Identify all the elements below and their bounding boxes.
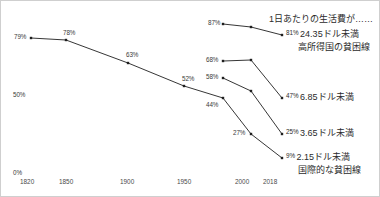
axis-tick-2000: 2000 [235, 179, 249, 185]
annotation-6-85-text: 6.85ドル未満 [300, 92, 354, 102]
axis-tick-1850: 1850 [59, 179, 73, 185]
annotation-24-35-sub: 高所得国の貧困線 [298, 43, 370, 52]
endpoint-label-47: 47% [286, 92, 299, 99]
annotation-header: 1日あたりの生活費が…… [269, 15, 373, 24]
endpoint-label-81: 81% [286, 29, 299, 36]
point-label-63: 63% [126, 52, 138, 58]
point-label-68: 68% [206, 57, 218, 63]
annotation-6-85: 47%6.85ドル未満 [286, 93, 354, 102]
series-markers [30, 23, 283, 159]
annotation-3-65: 25%3.65ドル未満 [286, 129, 354, 138]
series-line-24-35 [223, 24, 282, 35]
chart-figure: 0% 50% 1820 1850 1900 1950 2000 2018 79%… [0, 0, 380, 197]
point-label-87: 87% [208, 20, 220, 26]
annotation-2-15-sub: 国際的な貧困線 [298, 166, 361, 175]
point-label-44: 44% [206, 102, 218, 108]
series-line-2-15 [31, 38, 282, 158]
annotation-24-35-text: 24.35ドル未満 [300, 29, 359, 39]
axis-tick-1950: 1950 [177, 179, 191, 185]
axis-label-zero: 0% [13, 170, 22, 176]
series-line-3-65 [223, 78, 282, 134]
point-label-52: 52% [182, 76, 194, 82]
series-line-6-85 [223, 60, 282, 98]
annotation-2-15-text: 2.15ドル未満 [297, 152, 351, 162]
axis-tick-2018: 2018 [263, 179, 277, 185]
endpoint-label-25: 25% [286, 128, 299, 135]
annotation-2-15: 9%2.15ドル未満 [286, 153, 350, 162]
endpoint-label-9: 9% [286, 152, 295, 159]
point-label-78: 78% [63, 30, 75, 36]
axis-label-fifty: 50% [13, 92, 25, 98]
point-label-79: 79% [14, 34, 26, 40]
axis-tick-1900: 1900 [120, 179, 134, 185]
annotation-24-35: 81%24.35ドル未満 [286, 30, 359, 39]
axis-tick-1820: 1820 [20, 179, 34, 185]
point-label-58: 58% [206, 74, 218, 80]
annotation-3-65-text: 3.65ドル未満 [300, 128, 354, 138]
point-label-27: 27% [233, 130, 245, 136]
